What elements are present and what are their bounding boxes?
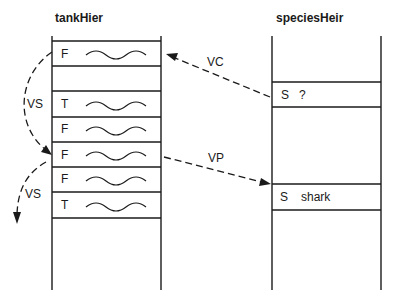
squiggle-value-icon xyxy=(86,127,146,135)
row-value: ? xyxy=(299,88,306,102)
tank-row-3: F xyxy=(61,122,146,136)
arrowhead-icon xyxy=(41,145,52,155)
row-tag: S xyxy=(280,190,288,204)
row-tag: F xyxy=(61,172,68,186)
tank-row-6: T xyxy=(61,198,146,212)
vc-arrow: VC xyxy=(166,53,270,97)
squiggle-value-icon xyxy=(86,102,146,110)
row-tag: S xyxy=(281,88,289,102)
row-tag: F xyxy=(61,148,68,162)
squiggle-value-icon xyxy=(86,177,146,185)
species-stack-title: speciesHeir xyxy=(276,11,344,25)
vs-arrow-1: VS xyxy=(24,52,52,155)
species-row-1: S shark xyxy=(280,190,331,204)
row-tag: T xyxy=(61,97,69,111)
vs-label-2: VS xyxy=(25,187,41,201)
diagram-canvas: tankHier speciesHeir F T F F xyxy=(0,0,396,303)
vp-label: VP xyxy=(208,151,224,165)
row-tag: T xyxy=(61,198,69,212)
tank-row-0: F xyxy=(61,47,146,61)
squiggle-value-icon xyxy=(86,203,146,211)
arrowhead-icon xyxy=(13,212,21,224)
vs-arrow-2: VS xyxy=(13,162,46,224)
arrowhead-icon xyxy=(259,178,271,186)
tank-row-5: F xyxy=(61,172,146,186)
tank-row-2: T xyxy=(61,97,146,111)
row-tag: F xyxy=(61,47,68,61)
squiggle-value-icon xyxy=(86,152,146,160)
tank-stack-title: tankHier xyxy=(55,11,103,25)
species-stack: S ? S shark xyxy=(272,36,381,290)
vs-label-1: VS xyxy=(27,97,43,111)
tank-row-4: F xyxy=(61,148,146,162)
squiggle-value-icon xyxy=(86,51,146,59)
row-value: shark xyxy=(301,190,331,204)
row-tag: F xyxy=(61,122,68,136)
vp-arrow: VP xyxy=(164,151,271,186)
vc-label: VC xyxy=(207,55,224,69)
species-row-0: S ? xyxy=(281,88,306,102)
tank-stack: F T F F F T xyxy=(52,36,161,290)
arrowhead-icon xyxy=(166,53,178,61)
